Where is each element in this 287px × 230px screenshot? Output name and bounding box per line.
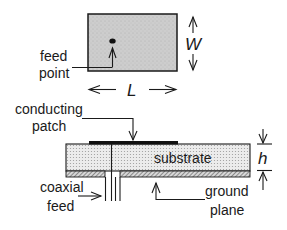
height-symbol: h — [258, 149, 267, 168]
ground-plane-label-line1: ground — [205, 183, 249, 199]
ground-plane-right — [120, 171, 250, 177]
feed-point-label-line2: point — [39, 65, 69, 81]
conducting-patch-label-line1: conducting — [15, 101, 83, 117]
side-view: conducting patch substrate coaxial feed — [15, 101, 272, 218]
ground-plane-arrow-icon — [152, 183, 205, 200]
coaxial-feed-label-line2: feed — [47, 198, 74, 214]
conducting-patch-label-line2: patch — [32, 118, 66, 134]
conducting-patch-layer — [89, 141, 178, 145]
top-view: feed point W L — [39, 14, 203, 100]
ground-plane-label-line2: plane — [210, 202, 244, 218]
width-symbol: W — [185, 35, 203, 54]
length-symbol: L — [127, 81, 136, 100]
feed-point-label-line1: feed — [40, 48, 67, 64]
substrate-label: substrate — [154, 150, 212, 166]
patch-top-view — [88, 14, 177, 71]
coaxial-feed-label-line1: coaxial — [40, 179, 84, 195]
conducting-patch-arrow-icon — [82, 119, 137, 141]
feed-point-dot — [109, 38, 115, 43]
ground-plane-left — [66, 171, 105, 177]
patch-antenna-diagram: feed point W L conducting patch substrat… — [0, 0, 287, 230]
